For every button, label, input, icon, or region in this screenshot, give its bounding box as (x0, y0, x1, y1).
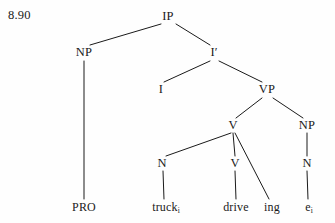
syntax-tree-figure: 8.90 (0, 0, 335, 223)
edge-ip-to-i-bar (176, 24, 210, 45)
node-np-subject: NP (76, 46, 92, 59)
terminal-drive-text: drive (223, 200, 249, 214)
node-i-head: I (159, 83, 163, 96)
node-vp: VP (259, 83, 275, 96)
node-n-object: N (302, 157, 311, 170)
edge-v-to-v (233, 133, 235, 156)
node-v-lower: V (230, 157, 239, 170)
tree-branch-lines (0, 0, 335, 223)
edge-v-to-n (166, 133, 231, 156)
terminal-trace-subscript: i (311, 206, 313, 215)
edge-vp-to-v (236, 98, 262, 118)
node-i-bar: I′ (211, 46, 218, 59)
terminal-pro: PRO (72, 201, 96, 213)
edge-n-object-to-trace (307, 171, 308, 199)
terminal-truck-text: truck (152, 200, 178, 214)
edge-i-bar-to-i (164, 61, 210, 82)
node-np-object: NP (299, 119, 315, 132)
terminal-truck-subscript: i (178, 206, 180, 215)
node-v-upper: V (228, 119, 237, 132)
edge-ip-to-np (90, 24, 161, 45)
terminal-drive: drive (223, 201, 249, 213)
terminal-truck: trucki (152, 201, 180, 213)
edge-v-to-ing (235, 133, 269, 199)
terminal-trace: ei (305, 201, 313, 213)
terminal-pro-text: PRO (72, 200, 96, 214)
terminal-trace-text: e (305, 200, 311, 214)
terminal-ing: ing (264, 201, 280, 213)
edge-vp-to-np-object (273, 98, 303, 118)
node-n-incorporated: N (157, 157, 166, 170)
terminal-ing-text: ing (264, 200, 280, 214)
node-ip: IP (162, 10, 174, 23)
edge-n-to-truck (163, 171, 164, 199)
edge-i-bar-to-vp (219, 61, 262, 82)
edge-v-to-drive (235, 171, 236, 199)
